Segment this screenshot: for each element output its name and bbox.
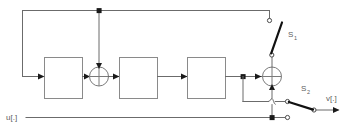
output-label: v[.] bbox=[326, 94, 337, 103]
arrowhead-into-block-2 bbox=[113, 74, 120, 80]
arrowhead-into-block-3 bbox=[181, 74, 188, 80]
arrowhead-into-sum-right bbox=[255, 74, 262, 80]
switch-s1[interactable]: S 1 bbox=[267, 18, 297, 57]
diagram-svg: S 1 S 2 v[.] bbox=[0, 0, 355, 132]
input-group: u[.] bbox=[6, 113, 290, 122]
switch-s1-terminal-top[interactable] bbox=[267, 18, 271, 22]
switch-s1-blade[interactable] bbox=[271, 23, 282, 54]
switch-s1-label: S bbox=[288, 30, 293, 39]
switch-s1-subscript: 1 bbox=[294, 35, 297, 41]
arrowhead-output bbox=[333, 107, 340, 113]
block-1[interactable] bbox=[45, 58, 83, 99]
block-2[interactable] bbox=[120, 58, 158, 99]
junction-dot-input-rail bbox=[270, 115, 275, 120]
input-rail-terminal[interactable] bbox=[285, 115, 289, 119]
junction-dot-top-rail bbox=[97, 8, 102, 13]
switch-s2-blade[interactable] bbox=[289, 102, 313, 110]
wire-hop-crossover bbox=[269, 99, 276, 105]
input-label: u[.] bbox=[6, 113, 17, 122]
switch-s2-subscript: 2 bbox=[307, 89, 310, 95]
output-group: v[.] bbox=[316, 94, 340, 113]
arrowhead-into-block-1 bbox=[38, 74, 45, 80]
switch-s2[interactable]: S 2 bbox=[285, 84, 316, 112]
sum-right-group bbox=[263, 56, 282, 90]
forward-path bbox=[38, 58, 268, 99]
switch-s2-label: S bbox=[301, 84, 306, 93]
block-diagram-canvas: S 1 S 2 v[.] bbox=[0, 0, 355, 132]
block-3[interactable] bbox=[188, 58, 226, 99]
